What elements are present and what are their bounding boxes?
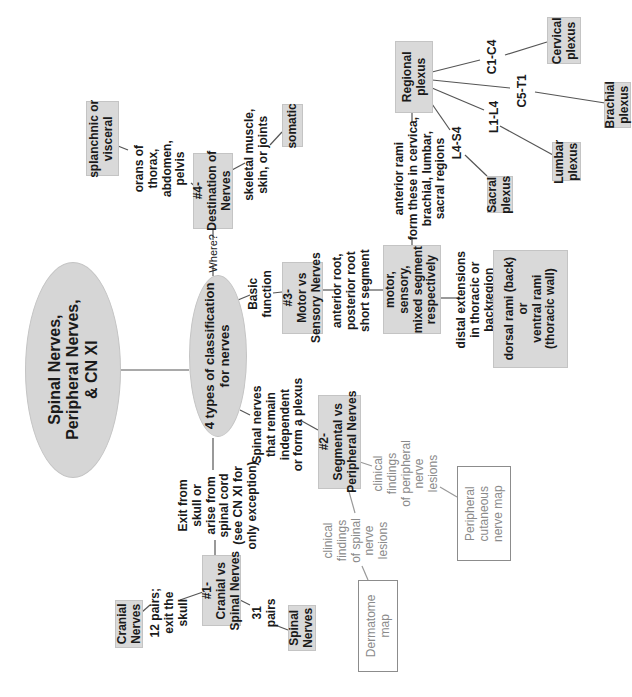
edge-label-roots: anterior root, posterior root short segm… [333, 252, 369, 330]
node-splanchnic-visceral: splanchnic or visceral [86, 101, 119, 176]
hub-node-classification: 4 types of classification for nerves [189, 275, 247, 437]
edge-label-organs: orans of thorax, abdomen, pelvis [130, 140, 190, 198]
edge-label-exit-skull: Exit from skull or arise from spinal cor… [178, 470, 258, 540]
node-spinal-nerves: Spinal Nerves [288, 605, 316, 651]
edge-label-c5-t1: C5-T1 [513, 72, 533, 110]
edge-label-basic-function: Basic function [246, 275, 276, 313]
edge-label-skeletal-muscle: skeletal muscle, skin, or joints [240, 115, 274, 195]
hub-node-label: 4 types of classification for nerves [203, 283, 233, 430]
node-lumbar-plexus: Lumbar plexus [552, 142, 581, 181]
edge-label-independent-or-plexus: Spinal nerves that remain independent or… [250, 385, 308, 465]
edge-label-12-pairs: 12 pairs; exit the skull [150, 590, 190, 635]
node-motor-vs-sensory: #3- Motor vs Sensory Nerves [282, 262, 323, 334]
edge-label-anterior-rami: anterior rami form these in cervica, bra… [388, 120, 453, 238]
root-node-label: Spinal Nerves, Peripheral Nerves, & CN X… [45, 300, 100, 441]
edge-label-where: Where? [205, 240, 221, 266]
node-cervical-plexus: Cervical plexus [547, 17, 581, 64]
root-node-spinal-peripheral-cn-xi: Spinal Nerves, Peripheral Nerves, & CN X… [25, 262, 121, 478]
edge-label-spinal-lesions: clinical findings of spinal nerve lesion… [326, 513, 386, 567]
edge-label-l1-l4: L1-L4 [485, 100, 505, 134]
node-dorsal-ventral-rami: dorsal rami (back) or ventral rami (thor… [493, 250, 568, 368]
node-motor-sensory-mixed: motor, sensory, mixed segment respective… [383, 245, 441, 334]
node-dermatome-map: Dermatome map [358, 580, 398, 672]
node-peripheral-cutaneous-map: Peripheral cutaneous nerve map [457, 466, 511, 561]
node-brachial-plexus: Brachial plexus [604, 82, 631, 128]
edge-label-c1-c4: C1-C4 [483, 38, 503, 76]
node-cranial-nerves: Cranial Nerves [115, 600, 143, 648]
node-somatic: somatic [282, 104, 303, 147]
node-regional-plexus: Regional plexus [395, 41, 433, 113]
node-segmental-vs-peripheral: #2- Segmental vs Peripheral Nerves [318, 395, 361, 489]
edge-label-31-pairs: 31 pairs [250, 598, 278, 628]
node-cranial-vs-spinal: #1- Cranial vs Spinal Nerves [202, 555, 241, 626]
edge-label-peripheral-lesions: clinical findings of peripheral nerve le… [372, 440, 440, 506]
node-destination-of-nerves: #4- Destination of Nerves [193, 153, 233, 229]
edge-label-l4-s4: L4-S4 [448, 126, 468, 160]
node-sacral-plexus: Sacral plexus [487, 176, 513, 213]
edge-label-distal-extensions: distal extensions in thoracic or backreg… [455, 250, 497, 350]
